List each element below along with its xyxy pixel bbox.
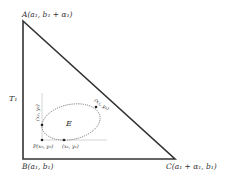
point-bottom-label: (x₁, y₁) [62,143,79,150]
point-left [41,124,44,127]
point-top-right-label: (x₃, y₃) [93,97,111,112]
point-top-right [95,106,98,109]
diagram-canvas: A(a₁, b₁ + α₁) T₁ B(a₁, b₁) C(a₁ + α₁, b… [0,0,227,179]
point-p [41,139,44,142]
ellipse-name-label: E [65,119,72,128]
point-p-label: P(x₀, y₀) [32,143,53,150]
vertex-b-label: B(a₁, b₁) [21,162,53,171]
vertex-a-label: A(a₁, b₁ + α₁) [21,10,73,19]
triangle-t1 [23,21,175,159]
point-left-label: (x₂, y₂) [34,104,41,121]
point-bottom [63,139,66,142]
vertex-c-label: C(a₁ + α₁, b₁) [166,162,217,171]
triangle-name-label: T₁ [9,94,18,103]
